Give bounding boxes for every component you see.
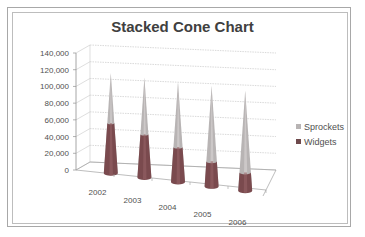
x-tick-label: 2004: [159, 203, 177, 212]
x-tick-label: 2003: [124, 196, 142, 205]
widgets-swatch: [296, 139, 301, 144]
x-tick-label: 2006: [229, 218, 247, 227]
widgets-highlight: [210, 161, 214, 188]
floor-edge: [263, 190, 266, 196]
y-tick-label: 40,000: [45, 133, 70, 142]
widgets-highlight: [244, 172, 248, 192]
gridline-back: [90, 62, 276, 70]
gridline-back: [90, 112, 276, 120]
y-tick-label: 120,000: [40, 66, 69, 75]
gridline-back: [90, 78, 276, 86]
y-tick-label: 140,000: [40, 49, 69, 58]
y-tick-label: 100,000: [40, 82, 69, 91]
gridline-back: [90, 95, 276, 103]
gridline-left: [76, 45, 90, 53]
gridline-left: [76, 78, 90, 86]
gridline-left: [76, 62, 90, 70]
x-tick-label: 2002: [89, 188, 107, 197]
sprockets-swatch: [296, 124, 301, 129]
legend-label-sprockets: Sprockets: [304, 122, 344, 132]
legend-item-sprockets: Sprockets: [296, 119, 344, 134]
gridline-left: [76, 129, 90, 137]
gridline-back: [90, 45, 276, 53]
x-tick-label: 2005: [194, 210, 212, 219]
legend: Sprockets Widgets: [296, 119, 344, 149]
legend-label-widgets: Widgets: [304, 137, 337, 147]
gridline-left: [76, 95, 90, 103]
y-tick-label: 0: [65, 166, 70, 175]
y-tick-label: 80,000: [45, 99, 70, 108]
legend-item-widgets: Widgets: [296, 134, 344, 149]
gridline-left: [76, 145, 90, 153]
y-tick-label: 20,000: [45, 149, 70, 158]
y-tick-label: 60,000: [45, 116, 70, 125]
gridline-left: [76, 112, 90, 120]
